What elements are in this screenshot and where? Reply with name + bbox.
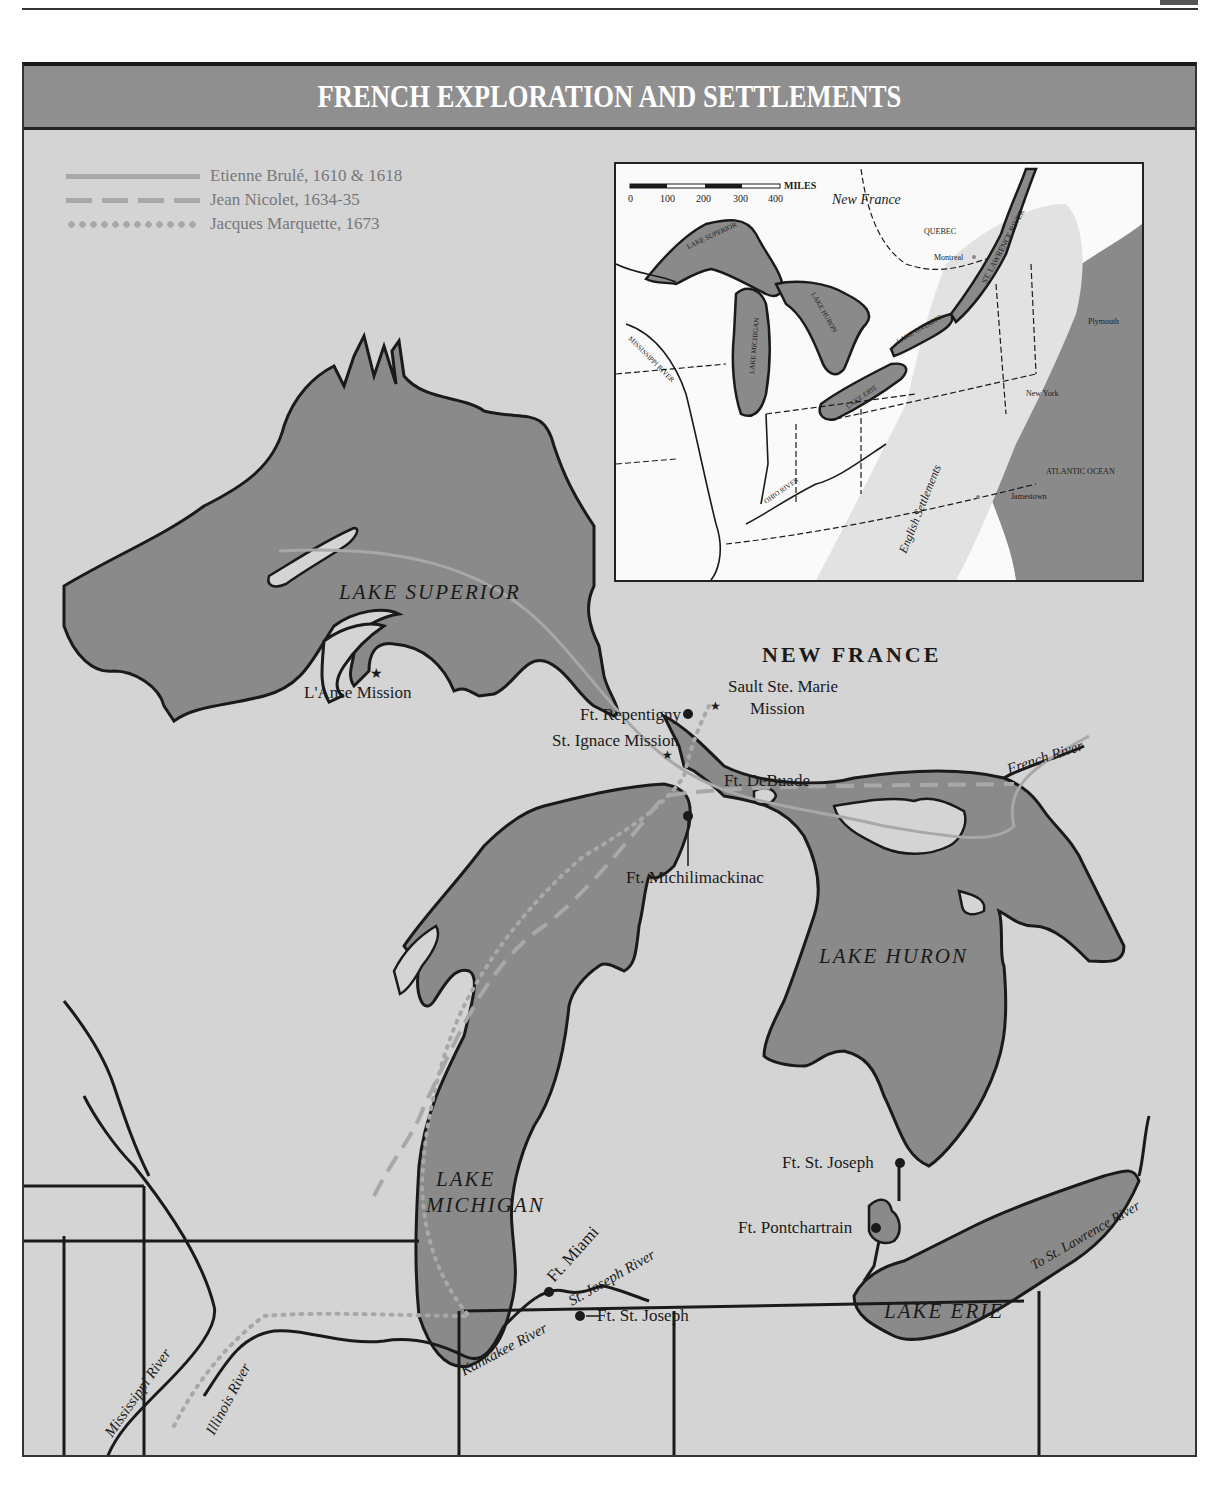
st-joseph-south-dot-icon: [575, 1311, 585, 1321]
inset-label-ohio: OHIO RIVER: [763, 476, 801, 506]
label-ft-michilimackinac: Ft. Michilimackinac: [626, 868, 764, 887]
st-joseph-north-dot-icon: [895, 1158, 905, 1168]
legend-label-marquette: Jacques Marquette, 1673: [210, 214, 379, 234]
inset-label-quebec: QUEBEC: [924, 227, 956, 236]
lake-st-clair: [869, 1200, 900, 1243]
label-new-france: NEW FRANCE: [762, 642, 941, 667]
solid-line-icon: [66, 174, 200, 179]
inset-map: MILES 0 100 200 300 400 New France QUEBE…: [614, 162, 1144, 582]
map-frame: FRENCH EXPLORATION AND SETTLEMENTS: [22, 62, 1197, 1457]
repentigny-dot-icon: [683, 709, 693, 719]
label-ft-st-joseph-south: Ft. St. Joseph: [597, 1306, 689, 1325]
label-sault-ste-marie: Sault Ste. Marie: [728, 677, 838, 696]
label-ft-repentigny: Ft. Repentigny: [580, 705, 682, 724]
route-legend: Etienne Brulé, 1610 & 1618 Jean Nicolet,…: [66, 164, 402, 236]
inset-label-atlantic: ATLANTIC OCEAN: [1046, 467, 1115, 476]
label-mississippi-river: Mississippi River: [101, 1345, 174, 1440]
legend-item-nicolet: Jean Nicolet, 1634-35: [66, 188, 402, 212]
label-st-ignace-mission: St. Ignace Mission: [552, 731, 680, 750]
miami-dot-icon: [544, 1287, 554, 1297]
inset-label-new-york: New York: [1026, 389, 1058, 398]
inset-scale-100: 100: [660, 193, 675, 204]
page-number-mark: [1160, 0, 1198, 5]
page-header-rule: [22, 8, 1198, 10]
label-lake-huron: LAKE HURON: [818, 944, 968, 968]
dashed-line-icon: [66, 198, 200, 203]
st-ignace-star-icon: ★: [662, 748, 673, 762]
label-ft-debuade: Ft. DeBuade: [724, 771, 810, 790]
label-ft-st-joseph-north: Ft. St. Joseph: [782, 1153, 874, 1172]
label-ft-pontchartrain: Ft. Pontchartrain: [738, 1218, 853, 1237]
inset-map-svg: MILES 0 100 200 300 400 New France QUEBE…: [616, 164, 1142, 580]
label-lake-erie: LAKE ERIE: [883, 1299, 1004, 1323]
legend-label-nicolet: Jean Nicolet, 1634-35: [210, 190, 360, 210]
inset-scale-400: 400: [768, 193, 783, 204]
inset-label-plymouth: Plymouth: [1088, 317, 1119, 326]
sault-star-icon: ★: [710, 699, 721, 713]
inset-label-montreal: Montreal: [934, 253, 964, 262]
label-lanse-mission: L'Anse Mission: [304, 683, 412, 702]
inset-scale-0: 0: [628, 193, 633, 204]
inset-montreal-dot-icon: [972, 255, 976, 259]
label-sault-mission: Mission: [750, 699, 805, 718]
label-lake-superior: LAKE SUPERIOR: [338, 580, 521, 604]
inset-lake-huron: [776, 282, 869, 375]
wisconsin-river: [64, 1001, 149, 1176]
legend-label-brule: Etienne Brulé, 1610 & 1618: [210, 166, 402, 186]
pontchartrain-dot-icon: [871, 1223, 881, 1233]
inset-scale-label: MILES: [784, 180, 817, 191]
inset-scale-bar: MILES 0 100 200 300 400: [628, 180, 817, 204]
label-lake-michigan-1: LAKE: [435, 1167, 495, 1191]
legend-item-brule: Etienne Brulé, 1610 & 1618: [66, 164, 402, 188]
inset-label-jamestown: Jamestown: [1011, 492, 1047, 501]
label-lake-michigan-2: MICHIGAN: [425, 1193, 545, 1217]
inset-label-new-france: New France: [831, 192, 901, 207]
inset-jamestown-dot-icon: [976, 495, 980, 499]
lanse-star-icon: ★: [370, 665, 383, 681]
mississippi-river: [84, 1096, 215, 1457]
dotted-line-icon: [66, 221, 200, 228]
label-ft-miami: Ft. Miami: [543, 1222, 603, 1285]
label-french-river: French River: [1004, 737, 1085, 777]
inset-scale-200: 200: [696, 193, 711, 204]
legend-item-marquette: Jacques Marquette, 1673: [66, 212, 402, 236]
inset-scale-300: 300: [733, 193, 748, 204]
niagara-river: [1139, 1116, 1149, 1176]
